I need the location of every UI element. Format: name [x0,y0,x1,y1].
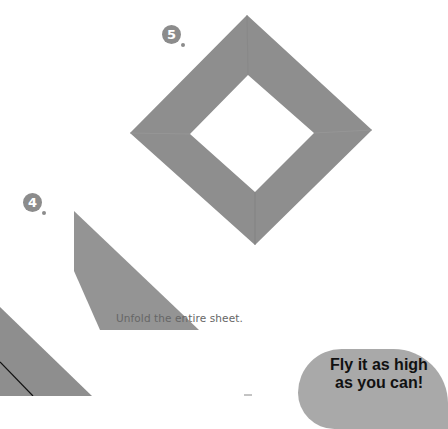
diamond-frame [130,15,372,245]
step-5-badge: 5 [162,25,181,44]
partial-sheet [0,307,92,396]
speech-line-2: as you can! [324,374,434,392]
step-4-badge: 4 [23,193,42,212]
instruction-caption: Unfold the entire sheet. [116,312,243,324]
step-4-number: 4 [28,195,37,210]
speech-line-1: Fly it as high [324,356,434,374]
speech-bubble-text: Fly it as high as you can! [324,356,434,392]
step-5-number: 5 [167,27,176,42]
